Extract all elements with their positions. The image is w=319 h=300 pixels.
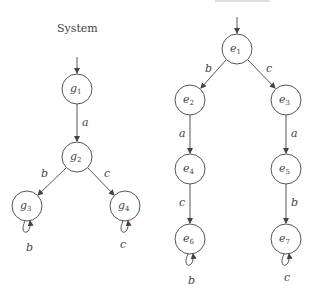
state-g3: g3 xyxy=(12,191,42,221)
self-loop-e7 xyxy=(282,254,289,265)
environment-diagram: b c a a c b b c e1 e2 e3 xyxy=(175,1,301,287)
state-e3: e3 xyxy=(271,85,301,115)
state-e7: e7 xyxy=(271,224,301,254)
edge-label-e5-e7: b xyxy=(291,196,298,209)
edge-label-e3-e5: a xyxy=(291,127,298,140)
edge-label-g1-g2: a xyxy=(82,116,89,129)
edge-label-e4-e6: c xyxy=(179,196,185,209)
state-g2: g2 xyxy=(62,142,92,172)
edge-label-e2-e4: a xyxy=(179,127,186,140)
edge-label-e6-loop: b xyxy=(188,274,195,287)
edge-label-e1-e3: c xyxy=(266,62,272,75)
edge-label-g2-g4: c xyxy=(104,167,110,180)
edge-label-g4-loop: c xyxy=(120,238,126,251)
edge-label-e7-loop: c xyxy=(284,271,290,284)
diagram-canvas: System a b c b c g1 g2 g3 g4 xyxy=(0,0,319,300)
system-diagram: System a b c b c g1 g2 g3 g4 xyxy=(12,22,140,254)
state-g4: g4 xyxy=(110,191,140,221)
self-loop-g4 xyxy=(121,221,128,232)
system-title: System xyxy=(57,22,98,35)
self-loop-e6 xyxy=(186,254,193,265)
edge-label-g3-loop: b xyxy=(26,241,33,254)
state-e4: e4 xyxy=(175,154,205,184)
edge-label-g2-g3: b xyxy=(41,167,48,180)
state-e1: e1 xyxy=(222,34,252,64)
state-e2: e2 xyxy=(175,85,205,115)
state-g1: g1 xyxy=(62,74,92,104)
self-loop-g3 xyxy=(23,221,30,232)
edge-label-e1-e2: b xyxy=(205,62,212,75)
state-e6: e6 xyxy=(175,224,205,254)
state-e5: e5 xyxy=(271,154,301,184)
